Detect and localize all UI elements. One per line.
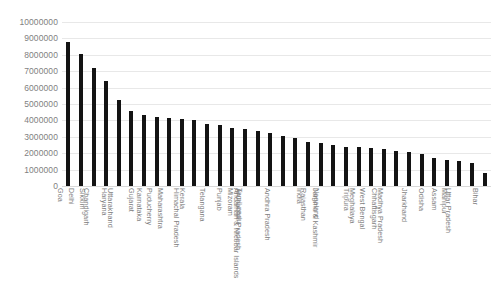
bar [306,142,310,186]
bar-slot [251,22,264,186]
bar [92,68,96,186]
x-axis-tick-label: Maharashtra [156,188,165,229]
bar-slot [428,22,441,186]
bar-slot [112,22,125,186]
bar-slot [377,22,390,186]
y-axis-tick-label: 8000000 [24,50,58,60]
y-axis-tick-label: 2000000 [24,148,58,158]
bar [432,158,436,186]
bar [256,131,260,186]
bar [394,151,398,186]
bar-slot [125,22,138,186]
bar [483,173,487,186]
bar-slot [403,22,416,186]
bar [331,145,335,186]
bar-slot [453,22,466,186]
bar [357,147,361,186]
x-axis-tick-label: Andaman & Nicobar Islands [232,188,241,278]
bar-slot [302,22,315,186]
bar-slot [441,22,454,186]
bar-slot [201,22,214,186]
bar-slot [176,22,189,186]
bar-slot [75,22,88,186]
x-axis-tick-label: Odisha [417,188,426,211]
bar-slot [277,22,290,186]
bar [243,129,247,186]
x-axis-tick-label: Assam [430,188,439,210]
x-axis-tick-label: Punjab [216,188,225,211]
bar-slot [188,22,201,186]
bar [293,138,297,186]
x-axis-tick-label: Karnataka [135,188,144,221]
x-axis-tick-label: Andhra Pradesh [264,188,273,241]
y-axis-tick-label: 5000000 [24,99,58,109]
bar-slot [226,22,239,186]
bar [281,136,285,186]
bar [192,120,196,186]
bar [445,160,449,186]
x-axis-tick-label: Meghalaya [348,188,357,224]
x-axis: GoaDelhiSikkimChandigarhHaryanaUttarakha… [62,188,491,296]
bar [420,154,424,186]
bar-chart: 1000000090000008000000700000060000005000… [0,0,495,297]
x-axis-tick-label: Goa [56,188,65,202]
bar [167,118,171,186]
bar-slot [365,22,378,186]
x-axis-tick-label: Delhi [67,188,76,205]
y-axis-tick-label: 7000000 [24,66,58,76]
bar [344,147,348,186]
x-axis-tick-label: Madhya Pradesh [376,188,385,243]
bar-slot [415,22,428,186]
y-axis-tick-label: 1000000 [24,165,58,175]
bar-slot [352,22,365,186]
bar-slot [138,22,151,186]
bar-slot [239,22,252,186]
bar [457,161,461,186]
x-axis-tick-label: Jammu & Kashmir [311,188,320,247]
x-axis-tick-label: Bihar [471,188,480,205]
bar [66,42,70,186]
bar [319,143,323,186]
x-axis-tick-label: Jharkhand [399,188,408,222]
bar-slot [289,22,302,186]
bar [79,54,83,186]
x-axis-tick-label: Rajasthan [299,188,308,221]
x-axis-tick-label: Chandigarh [82,188,91,226]
bar-slot [264,22,277,186]
bar-slot [100,22,113,186]
bar-slot [390,22,403,186]
bar [470,163,474,186]
bar-slot [213,22,226,186]
y-axis-tick-label: 9000000 [24,33,58,43]
x-axis-tick-label: Telangana [197,188,206,222]
bar [369,148,373,186]
bar-slot [466,22,479,186]
y-axis: 1000000090000008000000700000060000005000… [0,22,58,186]
bar-slot [340,22,353,186]
bar-slot [163,22,176,186]
bar [382,149,386,186]
bar-slot [478,22,491,186]
bar [407,152,411,186]
bar [104,81,108,186]
bar [218,125,222,186]
bar [117,100,121,186]
bar [155,117,159,186]
bar-slot [327,22,340,186]
bar-slot [62,22,75,186]
y-axis-tick-label: 4000000 [24,115,58,125]
y-axis-tick-label: 3000000 [24,132,58,142]
bar [180,119,184,186]
x-axis-tick-label: Puducherry [145,188,154,225]
bar-slot [150,22,163,186]
x-axis-tick-label: Himachal Pradesh [172,188,181,248]
bar-slot [314,22,327,186]
plot-area [62,22,491,186]
x-axis-tick-label: Uttarakhand [106,188,115,228]
y-axis-tick-label: 10000000 [19,17,58,27]
y-axis-tick-label: 6000000 [24,83,58,93]
x-axis-tick-label: Uttar Pradesh [444,188,453,233]
bar [268,133,272,186]
bar [205,124,209,186]
gridline [62,186,491,187]
